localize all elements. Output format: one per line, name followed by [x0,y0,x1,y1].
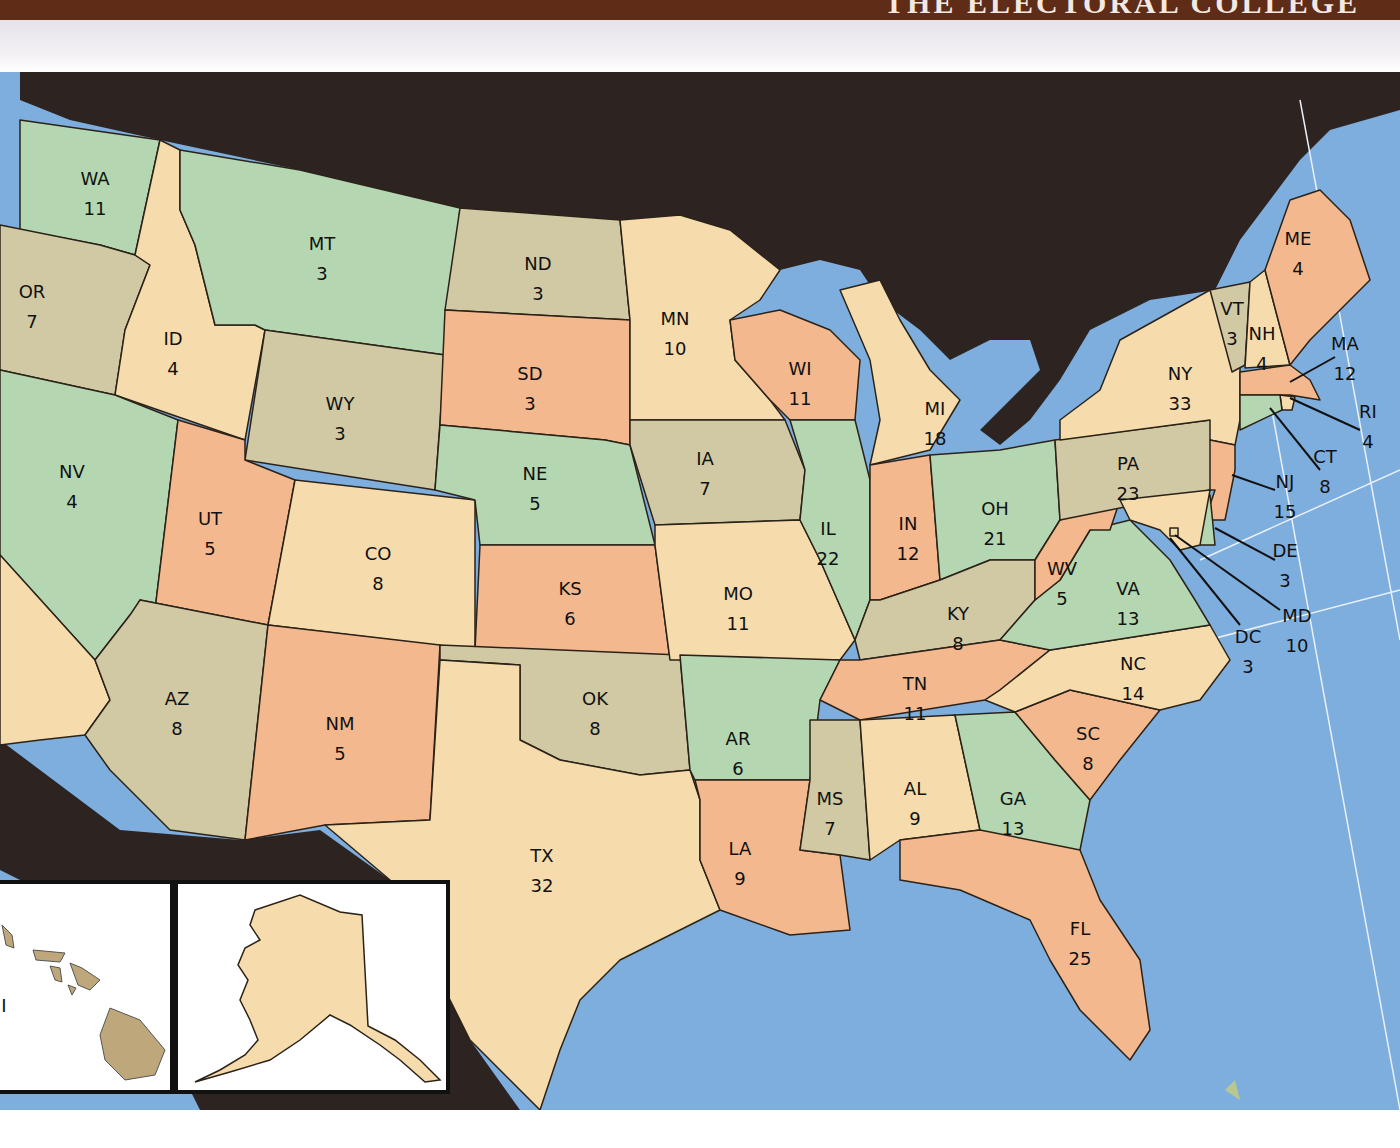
state-votes-label: 5 [1056,588,1067,609]
state-abbr-label: WY [326,393,356,414]
state-votes-label: 13 [1002,818,1025,839]
state-votes-label: 4 [1292,258,1303,279]
state-votes-label: 9 [909,808,920,829]
state-abbr-label: WI [788,358,811,379]
state-votes-label: 11 [904,703,927,724]
state-abbr-label: ND [524,253,551,274]
state-votes-label: 11 [727,613,750,634]
state-votes-label: 5 [529,493,540,514]
state-abbr-label: NV [59,461,85,482]
state-abbr-label: MN [661,308,690,329]
state-abbr-label: VA [1116,578,1140,599]
page-bottom-margin [0,1110,1400,1148]
state-votes-label: 8 [1319,476,1330,497]
state-abbr-label: NY [1168,363,1193,384]
state-abbr-label: CO [365,543,392,564]
state-abbr-label: MI [925,398,946,419]
state-votes-label: 11 [84,198,107,219]
state-abbr-label: GA [1000,788,1027,809]
state-votes-label: 3 [334,423,345,444]
hawaii-label: I [1,995,6,1016]
state-abbr-label: SD [517,363,542,384]
state-abbr-label: AR [726,728,751,749]
state-votes-label: 8 [952,633,963,654]
state-ia [630,420,805,525]
state-votes-label: 23 [1117,483,1140,504]
state-votes-label: 3 [532,283,543,304]
state-abbr-label: WV [1047,558,1078,579]
state-abbr-label: PA [1117,453,1140,474]
state-abbr-label: RI [1359,401,1377,422]
state-votes-label: 32 [531,875,554,896]
state-ks [475,545,670,660]
state-votes-label: 4 [1256,353,1267,374]
state-abbr-label: UT [198,508,223,529]
header-strip [0,20,1400,72]
state-abbr-label: MA [1331,333,1360,354]
state-votes-label: 4 [1362,431,1373,452]
state-votes-label: 6 [564,608,575,629]
state-votes-label: 7 [824,818,835,839]
state-abbr-label: IL [820,518,835,539]
state-abbr-label: MS [817,788,844,809]
state-abbr-label: MT [309,233,337,254]
state-votes-label: 3 [1279,570,1290,591]
state-votes-label: 8 [171,718,182,739]
state-abbr-label: OK [582,688,609,709]
state-abbr-label: TX [529,845,553,866]
state-votes-label: 8 [589,718,600,739]
state-abbr-label: NH [1249,323,1276,344]
state-votes-label: 33 [1169,393,1192,414]
state-abbr-label: FL [1070,918,1090,939]
state-votes-label: 12 [1334,363,1357,384]
state-votes-label: 4 [66,491,77,512]
state-abbr-label: WA [80,168,110,189]
state-votes-label: 14 [1122,683,1145,704]
state-votes-label: 5 [334,743,345,764]
state-abbr-label: NJ [1276,471,1295,492]
state-abbr-label: VT [1220,298,1244,319]
state-votes-label: 22 [817,548,840,569]
state-abbr-label: CT [1313,446,1338,467]
state-votes-label: 12 [897,543,920,564]
state-votes-label: 10 [1286,635,1309,656]
state-votes-label: 15 [1274,501,1297,522]
state-votes-label: 6 [732,758,743,779]
state-abbr-label: MO [723,583,753,604]
state-abbr-label: DC [1235,626,1261,647]
state-votes-label: 8 [1082,753,1093,774]
hawaii-inset: I [0,882,172,1092]
state-votes-label: 18 [924,428,947,449]
state-votes-label: 8 [372,573,383,594]
state-votes-label: 11 [789,388,812,409]
state-votes-label: 13 [1117,608,1140,629]
state-abbr-label: KY [947,603,970,624]
state-votes-label: 3 [1242,656,1253,677]
state-votes-label: 9 [734,868,745,889]
state-votes-label: 3 [524,393,535,414]
state-abbr-label: IA [696,448,714,469]
page-title: THE ELECTORAL COLLEGE [884,0,1360,20]
state-abbr-label: AZ [165,688,190,709]
state-abbr-label: OR [19,281,46,302]
state-votes-label: 3 [1226,328,1237,349]
state-abbr-label: ID [163,328,182,349]
state-co [268,480,475,650]
state-abbr-label: DE [1272,540,1297,561]
state-votes-label: 25 [1069,948,1092,969]
state-abbr-label: TN [902,673,927,694]
header-bar: THE ELECTORAL COLLEGE [0,0,1400,20]
state-votes-label: 4 [167,358,178,379]
state-votes-label: 7 [699,478,710,499]
state-abbr-label: AL [904,778,926,799]
state-abbr-label: KS [558,578,581,599]
state-abbr-label: OH [981,498,1009,519]
state-votes-label: 7 [26,311,37,332]
state-abbr-label: NC [1120,653,1146,674]
state-abbr-label: MD [1282,605,1311,626]
state-abbr-label: SC [1076,723,1100,744]
state-abbr-label: NM [326,713,355,734]
electoral-map: WA11OR7ID4MT3WY3NV4UT5CO8AZ8NM5ND3SD3NE5… [0,72,1400,1110]
state-votes-label: 21 [984,528,1007,549]
state-votes-label: 10 [664,338,687,359]
